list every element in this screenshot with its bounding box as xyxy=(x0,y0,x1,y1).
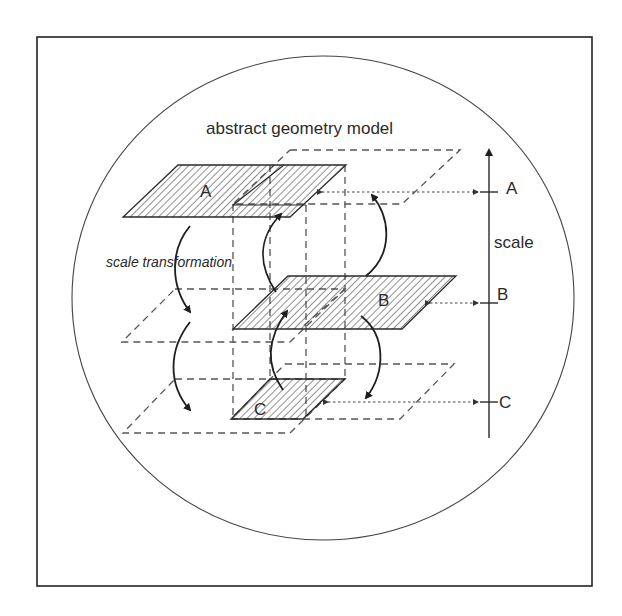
plane-b-label: B xyxy=(378,291,389,310)
plane-c-label: C xyxy=(254,400,266,419)
axis-tick-label-a: A xyxy=(506,179,518,198)
diagram-title: abstract geometry model xyxy=(206,119,393,138)
scale-transformation-label: scale transformation xyxy=(106,254,232,270)
scale-axis-label: scale xyxy=(494,233,534,252)
axis-tick-label-b: B xyxy=(497,285,508,304)
plane-a-label: A xyxy=(200,182,212,201)
axis-tick-label-c: C xyxy=(499,393,511,412)
diagram-canvas: abstract geometry model scale A B C A B … xyxy=(0,0,622,616)
